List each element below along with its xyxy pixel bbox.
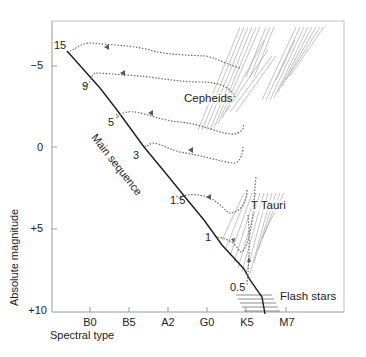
arrow-icon (231, 238, 235, 243)
y-axis-title: Absolute magnitude (9, 209, 20, 306)
track-arrows (104, 44, 251, 262)
evolution-tracks (70, 43, 256, 285)
y-tick-label: +10 (17, 305, 47, 316)
mass-label-9: 9 (82, 81, 88, 92)
track-1 (217, 177, 256, 252)
mass-label-15: 15 (54, 40, 66, 51)
mass-label-1-5: 1.5 (170, 195, 185, 206)
x-axis-title: Spectral type (50, 330, 114, 341)
x-tick-label: G0 (192, 317, 222, 328)
arrow-icon (206, 194, 211, 200)
mass-label-0-5: 0.5 (230, 282, 245, 293)
y-tick-label: 0 (13, 142, 43, 153)
cepheids-label: Cepheids (184, 93, 233, 105)
x-tick-label: A2 (153, 317, 183, 328)
cepheid-strip-hatching (198, 27, 324, 130)
track-15 (70, 43, 240, 68)
arrow-icon (148, 110, 153, 116)
x-tick-label: K5 (232, 317, 262, 328)
main-sequence-line (67, 51, 265, 314)
t-tauri-label: T Tauri (251, 200, 286, 212)
mass-label-1: 1 (205, 232, 211, 243)
flash-stars-label: Flash stars (280, 291, 336, 303)
hr-diagram: −5 0 +5 +10 B0 B5 A2 G0 K5 M7 Spectral t… (0, 0, 366, 357)
plot-frame (52, 21, 344, 312)
mass-label-5: 5 (108, 117, 114, 128)
y-tick-label: −5 (13, 60, 43, 71)
x-tick-label: M7 (272, 317, 302, 328)
flash-stars-hatching (236, 295, 280, 311)
mass-label-3: 3 (133, 150, 139, 161)
arrow-icon (188, 147, 193, 153)
x-tick-label: B5 (114, 317, 144, 328)
track-5 (117, 112, 244, 134)
arrow-icon (104, 44, 109, 50)
y-ticks (52, 66, 57, 229)
x-tick-label: B0 (75, 317, 105, 328)
track-3 (145, 143, 243, 163)
diagram-canvas (0, 0, 366, 357)
